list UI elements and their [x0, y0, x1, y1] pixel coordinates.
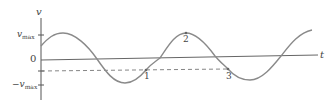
- sine-curve: [41, 30, 312, 83]
- neg-vmax-label-sub: max: [25, 83, 38, 90]
- t-axis: [41, 55, 318, 60]
- t-axis-label: t: [320, 50, 324, 60]
- point-2-label: 2: [183, 35, 189, 44]
- point-3-label: 3: [226, 72, 232, 81]
- point-3-marker: [227, 68, 230, 71]
- vmax-label-sub: max: [22, 33, 35, 40]
- zero-label: 0: [30, 54, 36, 64]
- v-axis-label: v: [36, 7, 42, 17]
- neg-vmax-label: −vmax: [12, 80, 37, 90]
- dashed-reference-line: [41, 69, 228, 71]
- velocity-time-graph: [0, 0, 328, 105]
- point-1-label: 1: [144, 72, 150, 81]
- neg-vmax-label-prefix: −: [12, 79, 20, 89]
- vmax-label: vmax: [17, 30, 35, 40]
